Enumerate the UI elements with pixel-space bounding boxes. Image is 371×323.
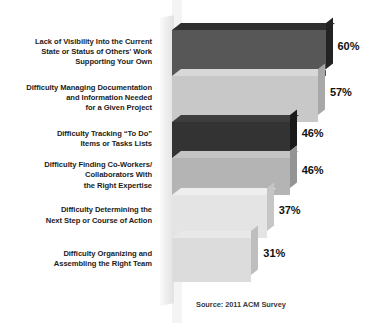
bar-chart: Lack of Visibility Into the CurrentState…: [0, 0, 371, 323]
bar-top-face: [172, 23, 335, 30]
bar-front-face: [172, 238, 251, 282]
bar-side-face: [251, 226, 258, 275]
bar-top-face: [172, 188, 276, 195]
bar-side-face: [326, 18, 333, 69]
bar-6: [172, 238, 251, 282]
source-note: Source: 2011 ACM Survey: [196, 300, 286, 309]
bar-value-label: 31%: [263, 247, 285, 259]
bar-top-face: [172, 151, 299, 158]
bar-top-face: [172, 115, 299, 122]
bar-side-face: [290, 146, 297, 188]
bar-value-label: 46%: [302, 127, 324, 139]
bar-value-label: 37%: [279, 204, 301, 216]
bar-value-label: 60%: [338, 40, 360, 52]
bar-top-face: [172, 69, 327, 76]
bar-top-face: [172, 231, 260, 238]
bar-value-label: 46%: [302, 164, 324, 176]
bar-side-face: [267, 183, 274, 231]
bar-side-face: [318, 64, 325, 115]
bar-side-face: [290, 110, 297, 151]
bar-series: 60%57%46%46%37%31%: [0, 0, 371, 323]
bar-value-label: 57%: [330, 86, 352, 98]
